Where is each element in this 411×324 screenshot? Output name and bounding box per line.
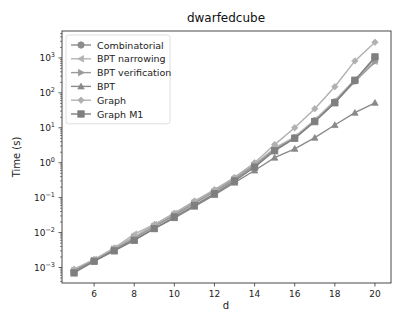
data-point: [91, 258, 97, 264]
data-point: [292, 135, 298, 141]
legend-marker-icon: [78, 42, 84, 48]
data-point: [251, 164, 257, 170]
legend-label: Combinatorial: [97, 40, 164, 51]
x-tick-label: 6: [91, 289, 97, 299]
data-point: [312, 135, 318, 141]
line-chart: dwarfedcube 6810121416182010−310−210−110…: [0, 0, 411, 324]
data-point: [231, 178, 237, 184]
legend-label: Graph M1: [97, 109, 143, 120]
y-tick-label: 10−3: [34, 261, 55, 273]
x-tick-label: 18: [329, 289, 341, 299]
y-tick-label: 10−2: [34, 226, 55, 238]
legend-label: Graph: [97, 95, 126, 106]
data-point: [372, 54, 378, 60]
y-tick-label: 101: [39, 121, 55, 133]
legend: CombinatorialBPT narrowingBPT verificati…: [66, 35, 171, 124]
x-tick-label: 20: [369, 289, 381, 299]
data-point: [352, 77, 358, 83]
x-axis-label: d: [223, 300, 229, 311]
chart-title: dwarfedcube: [187, 11, 265, 25]
data-point: [271, 148, 277, 154]
x-tick-label: 14: [249, 289, 261, 299]
x-tick-label: 12: [209, 289, 220, 299]
data-point: [171, 214, 177, 220]
legend-label: BPT narrowing: [97, 53, 166, 64]
data-point: [292, 146, 298, 152]
y-axis-label: Time (s): [11, 137, 22, 179]
data-point: [352, 110, 358, 116]
data-point: [191, 202, 197, 208]
data-point: [332, 122, 338, 128]
data-point: [372, 100, 378, 106]
data-point: [131, 237, 137, 243]
legend-label: BPT: [97, 81, 115, 92]
data-point: [211, 190, 217, 196]
x-tick-label: 16: [289, 289, 301, 299]
data-point: [332, 100, 338, 106]
x-tick-label: 10: [169, 289, 181, 299]
y-tick-label: 102: [39, 86, 55, 98]
y-tick-label: 10−1: [34, 191, 55, 203]
legend-label: BPT verification: [97, 67, 171, 78]
y-tick-label: 100: [39, 156, 55, 168]
x-tick-label: 8: [131, 289, 137, 299]
data-point: [312, 118, 318, 124]
data-point: [71, 270, 77, 276]
data-point: [111, 248, 117, 254]
y-tick-label: 103: [39, 51, 55, 63]
data-point: [151, 225, 157, 231]
legend-marker-icon: [78, 111, 84, 117]
